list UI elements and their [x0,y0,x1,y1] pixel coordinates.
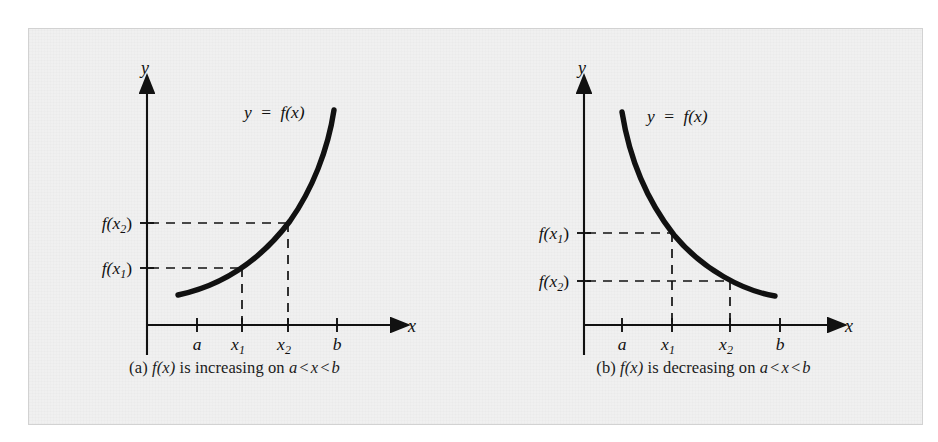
caption-increasing-fx: f(x) [152,358,175,377]
x-tick-label-b: b [333,334,342,354]
caption-increasing-lt1: < [297,358,310,377]
x-tick-label-x2-base: x [718,334,727,354]
caption-decreasing-a: a [760,358,768,377]
curve-label: y = f(x) [242,102,305,122]
caption-increasing-b: b [332,358,340,377]
y-tick-label-fx2-close: ) [126,213,132,233]
x-tick-label-x2-sub: 2 [727,343,733,357]
curve-label-equals: = [664,106,674,126]
curve-label-y: y [242,102,252,122]
caption-increasing: (a) f(x) is increasing on a<x<b [0,358,469,378]
caption-decreasing-fx: f(x) [620,358,643,377]
y-tick-label-fx2: f(x2) [539,271,569,294]
curve-label: y = f(x) [645,106,708,126]
x-tick-label-x1-sub: 1 [239,343,245,357]
plot-increasing: y x y = f(x) a x1 x2 b f(x2) f(x1) [0,0,469,442]
y-axis-label: y [139,58,149,78]
caption-decreasing-x: x [782,358,789,377]
y-tick-label-fx2-base: f(x [102,213,121,233]
x-tick-label-x2: x2 [276,334,291,357]
x-tick-label-x1: x1 [660,334,675,357]
curve-label-fx: f(x) [683,106,707,126]
x-tick-label-x2-base: x [276,334,285,354]
x-tick-label-x2-sub: 2 [285,343,291,357]
x-tick-label-a: a [193,334,202,354]
x-axis-label: x [407,316,416,336]
caption-decreasing: (b) f(x) is decreasing on a<x<b [469,358,938,378]
function-curve-decreasing [622,112,775,296]
caption-increasing-prefix: (a) [129,358,148,377]
y-tick-label-fx1-close: ) [126,258,132,278]
y-tick-label-fx2: f(x2) [102,213,132,236]
x-tick-label-a: a [618,334,627,354]
caption-increasing-lt2: < [318,358,331,377]
caption-increasing-x: x [311,358,318,377]
curve-label-equals: = [261,102,271,122]
y-tick-label-fx2-base: f(x [539,271,558,291]
x-tick-label-x1-base: x [230,334,239,354]
caption-decreasing-b: b [802,358,810,377]
y-axis-label: y [576,58,586,78]
figure-root: y x y = f(x) a x1 x2 b f(x2) f(x1) [0,0,938,442]
x-tick-label-b: b [776,334,785,354]
y-tick-label-fx1-base: f(x [539,223,558,243]
caption-increasing-verb: is increasing on [180,358,285,377]
curve-label-y: y [645,106,655,126]
plot-decreasing: y x y = f(x) a x1 x2 b f(x1) f(x2) [469,0,938,442]
y-tick-label-fx1-close: ) [563,223,569,243]
y-tick-label-fx2-close: ) [563,271,569,291]
x-tick-label-x1: x1 [230,334,245,357]
caption-decreasing-verb: is decreasing on [648,358,756,377]
y-tick-label-fx1-base: f(x [102,258,121,278]
caption-decreasing-lt1: < [768,358,781,377]
x-axis-label: x [844,316,853,336]
caption-decreasing-prefix: (b) [596,358,616,377]
y-tick-label-fx1: f(x1) [539,223,569,246]
x-tick-label-x2: x2 [718,334,733,357]
x-tick-label-x1-base: x [660,334,669,354]
caption-decreasing-lt2: < [789,358,802,377]
x-tick-label-x1-sub: 1 [669,343,675,357]
curve-label-fx: f(x) [280,102,304,122]
y-tick-label-fx1: f(x1) [102,258,132,281]
